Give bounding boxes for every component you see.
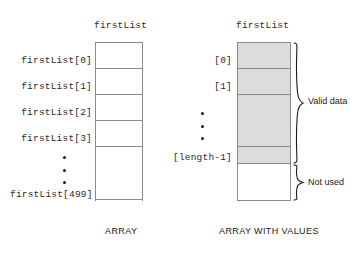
right-array-box [237,42,291,201]
valid-data-brace-icon [293,42,305,164]
right-array-label-length-minus-1: [length-1] [160,152,232,163]
not-used-annotation: Not used [308,177,344,187]
right-array-cell-unused [238,164,290,200]
left-array-label-499: firstList[499] [10,189,92,200]
not-used-brace-icon [293,164,305,201]
right-array-cell-gap [238,95,290,147]
array-diagram: firstList firstList[0] firstList[1] firs… [0,0,357,255]
left-array-label-2: firstList[2] [20,107,92,118]
right-array-cell-1 [238,69,290,95]
left-array-cell-3 [96,121,142,147]
left-array-title: firstList [94,20,147,31]
left-array-box [95,42,143,201]
left-array-caption: ARRAY [105,226,137,236]
left-array-cell-gap [96,147,142,200]
left-array-cell-2 [96,95,142,121]
left-array-label-0: firstList[0] [20,55,92,66]
right-array-title: firstList [236,20,289,31]
left-array-cell-499 [96,200,142,222]
left-array-cell-1 [96,69,142,95]
right-array-label-0: [0] [170,55,232,66]
right-array-cell-0 [238,43,290,69]
valid-data-annotation: Valid data [308,96,347,106]
right-array-ellipsis-icon [200,112,204,140]
right-array-label-1: [1] [170,81,232,92]
left-array-label-1: firstList[1] [20,81,92,92]
right-array-caption: ARRAY WITH VALUES [219,226,319,236]
left-array-cell-0 [96,43,142,69]
left-array-label-3: firstList[3] [20,133,92,144]
right-array-cell-length-minus-1 [238,147,290,164]
left-array-ellipsis-icon [62,156,66,184]
